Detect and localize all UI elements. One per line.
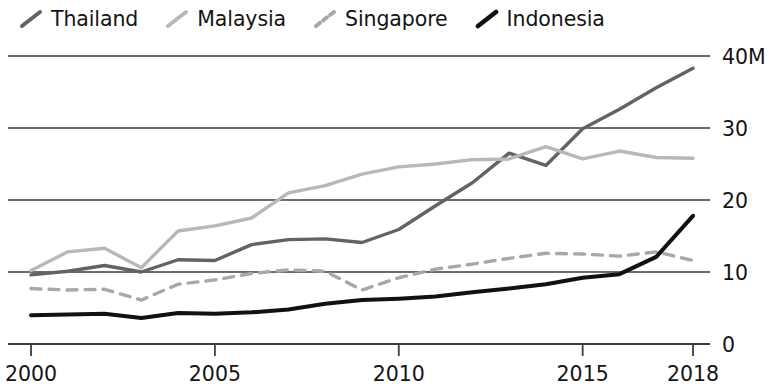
x-tick-label: 2015 xyxy=(557,362,609,386)
y-tick-label: 10 xyxy=(722,261,748,285)
x-axis-ticks xyxy=(31,344,693,356)
line-chart: Thailand Malaysia Singapore Indonesia 01… xyxy=(0,0,778,391)
series-line-thailand xyxy=(31,68,693,275)
x-tick-label: 2018 xyxy=(667,362,719,386)
plot-area: 010203040M 20002005201020152018 xyxy=(0,0,778,391)
y-tick-label: 20 xyxy=(722,189,748,213)
y-tick-label: 40M xyxy=(722,45,766,69)
series-lines xyxy=(31,68,693,318)
x-axis-tick-labels: 20002005201020152018 xyxy=(5,362,719,386)
x-tick-label: 2005 xyxy=(189,362,241,386)
y-tick-label: 0 xyxy=(722,333,735,357)
y-tick-label: 30 xyxy=(722,117,748,141)
x-tick-label: 2000 xyxy=(5,362,57,386)
plot-svg: 010203040M 20002005201020152018 xyxy=(0,0,778,391)
series-line-indonesia xyxy=(31,216,693,318)
series-line-malaysia xyxy=(31,147,693,271)
y-axis-tick-labels: 010203040M xyxy=(722,45,766,357)
x-tick-label: 2010 xyxy=(373,362,425,386)
